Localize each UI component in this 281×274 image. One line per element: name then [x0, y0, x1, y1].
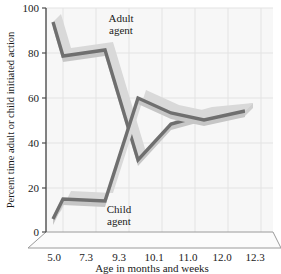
y-tick-label-60: 60	[28, 92, 40, 104]
x-tick-label-7: 12.3	[245, 251, 265, 263]
adult-agent-label-line1: Adult	[108, 12, 133, 24]
x-axis-title: Age in months and weeks	[95, 262, 209, 274]
adult-agent-label-line2: agent	[109, 24, 133, 36]
y-tick-label-100: 100	[23, 2, 40, 14]
x-tick-label-6: 12.0	[212, 251, 232, 263]
y-tick-label-0: 0	[34, 226, 40, 238]
child-agent-label-line2: agent	[107, 215, 131, 227]
chart-figure: 100 80 60 40 20 0 5.0 7.3 9.3 10.1 11.0 …	[0, 0, 281, 274]
y-tick-label-40: 40	[28, 137, 40, 149]
line-chart-svg: 100 80 60 40 20 0 5.0 7.3 9.3 10.1 11.0 …	[0, 0, 281, 274]
y-tick-label-20: 20	[28, 182, 40, 194]
x-tick-label-2: 7.3	[79, 251, 93, 263]
child-agent-label-line1: Child	[107, 203, 132, 215]
y-axis-title: Percent time adult or child initiated ac…	[5, 31, 16, 208]
y-tick-label-80: 80	[28, 47, 40, 59]
x-tick-label-1: 5.0	[47, 251, 61, 263]
floor-plane	[28, 232, 281, 248]
